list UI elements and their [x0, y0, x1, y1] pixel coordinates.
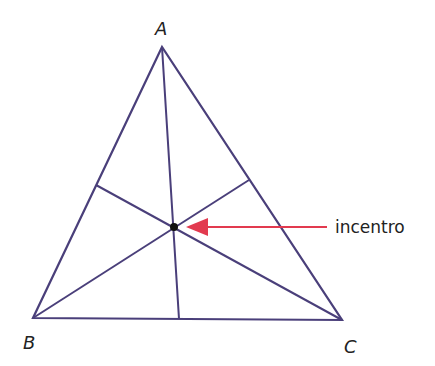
bisector-from-c: [96, 185, 342, 320]
incenter-point: [170, 223, 178, 231]
incenter-label: incentro: [335, 217, 405, 237]
triangle-abc: [33, 47, 342, 320]
bisector-from-a: [162, 47, 179, 319]
vertex-label-a: A: [154, 18, 167, 39]
vertex-label-b: B: [23, 332, 35, 353]
arrowhead-icon: [186, 218, 208, 236]
incenter-diagram: A B C incentro: [0, 0, 435, 366]
vertex-label-c: C: [344, 336, 357, 357]
